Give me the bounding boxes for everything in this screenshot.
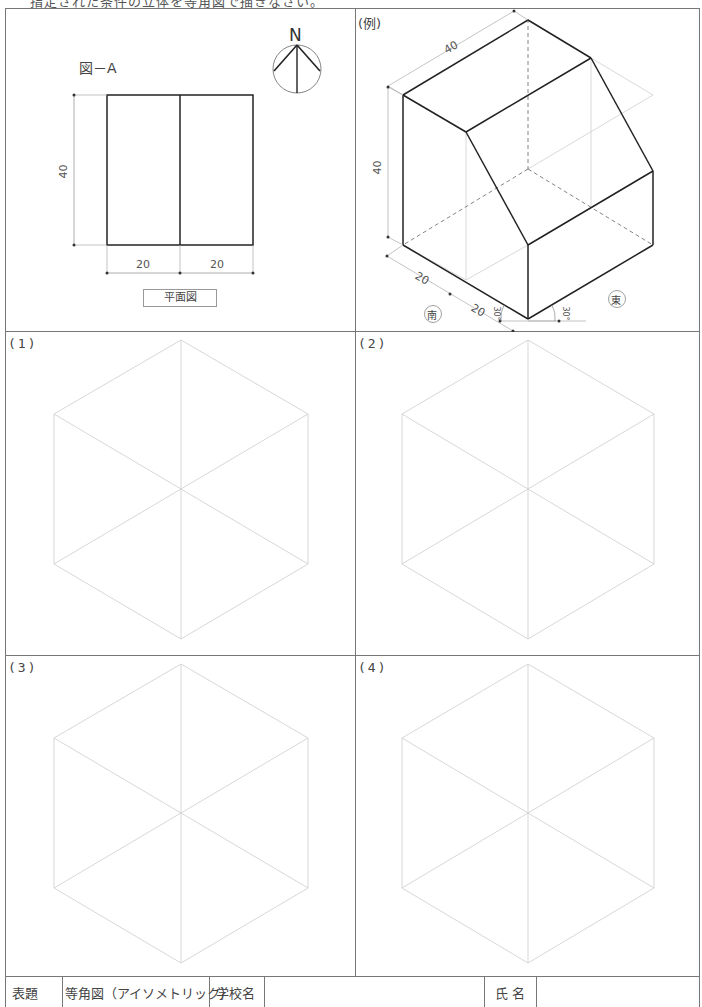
school-heading: 学校名 <box>210 977 265 1007</box>
example-isometric-drawing <box>356 9 699 332</box>
panel-plan-view: N 図－A 40 20 20 平面図 <box>6 9 356 332</box>
south-label: 南 <box>427 307 437 322</box>
isometric-guide-hexagon <box>356 656 699 976</box>
exercise-panel-2[interactable]: (2) <box>356 332 699 656</box>
title-block: 表題 等角図（アイソメトリック） 学校名 氏 名 <box>5 977 700 1007</box>
isometric-guide-hexagon <box>6 656 356 976</box>
example-dim-height: 40 <box>371 161 384 175</box>
north-arrow-icon <box>273 45 321 93</box>
name-field[interactable] <box>537 977 699 1007</box>
title-value: 等角図（アイソメトリック） <box>63 977 210 1007</box>
east-label: 東 <box>611 292 621 307</box>
dim-height-label: 40 <box>57 165 70 179</box>
name-heading: 氏 名 <box>485 977 537 1007</box>
exercise-panel-4[interactable]: (4) <box>356 656 699 976</box>
isometric-guide-hexagon <box>6 332 356 656</box>
example-angle-right: 30° <box>561 306 570 320</box>
dim-left-label: 20 <box>136 258 150 271</box>
plan-caption: 平面図 <box>143 289 217 307</box>
exercise-panel-3[interactable]: (3) <box>6 656 356 976</box>
panel-example: (例) <box>356 9 699 332</box>
drawing-sheet: N 図－A 40 20 20 平面図 (例) <box>5 8 700 977</box>
school-field[interactable] <box>265 977 485 1007</box>
north-label: N <box>289 25 302 45</box>
dim-right-label: 20 <box>210 258 224 271</box>
isometric-guide-hexagon <box>356 332 699 656</box>
example-angle-left: 30° <box>492 306 501 320</box>
figure-label: 図－A <box>79 57 117 77</box>
exercise-panel-1[interactable]: (1) <box>6 332 356 656</box>
title-heading: 表題 <box>6 977 63 1007</box>
